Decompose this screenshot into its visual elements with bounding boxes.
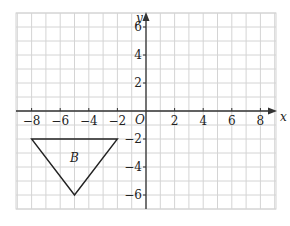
shape-label: B — [69, 151, 79, 165]
origin-label: O — [135, 113, 145, 127]
x-tick-label: 2 — [171, 114, 179, 128]
axes — [16, 12, 277, 209]
x-tick-label: 6 — [228, 114, 236, 128]
axis-labels: −8−6−4−22468642−2−4−6xyO — [23, 11, 287, 202]
y-tick-label: −2 — [124, 132, 142, 146]
y-axis-label: y — [135, 11, 143, 25]
x-tick-label: −6 — [51, 114, 69, 128]
x-tick-label: −4 — [80, 114, 98, 128]
x-tick-label: −2 — [109, 114, 127, 128]
y-tick-label: 2 — [134, 76, 142, 90]
x-tick-label: −8 — [23, 114, 41, 128]
y-tick-label: −4 — [124, 160, 142, 174]
x-tick-label: 4 — [199, 114, 207, 128]
x-tick-label: 8 — [257, 114, 265, 128]
x-axis-label: x — [280, 110, 287, 124]
y-tick-label: 4 — [134, 48, 142, 62]
coordinate-grid: −8−6−4−22468642−2−4−6xyO B — [0, 0, 290, 226]
y-tick-label: −6 — [124, 188, 142, 202]
